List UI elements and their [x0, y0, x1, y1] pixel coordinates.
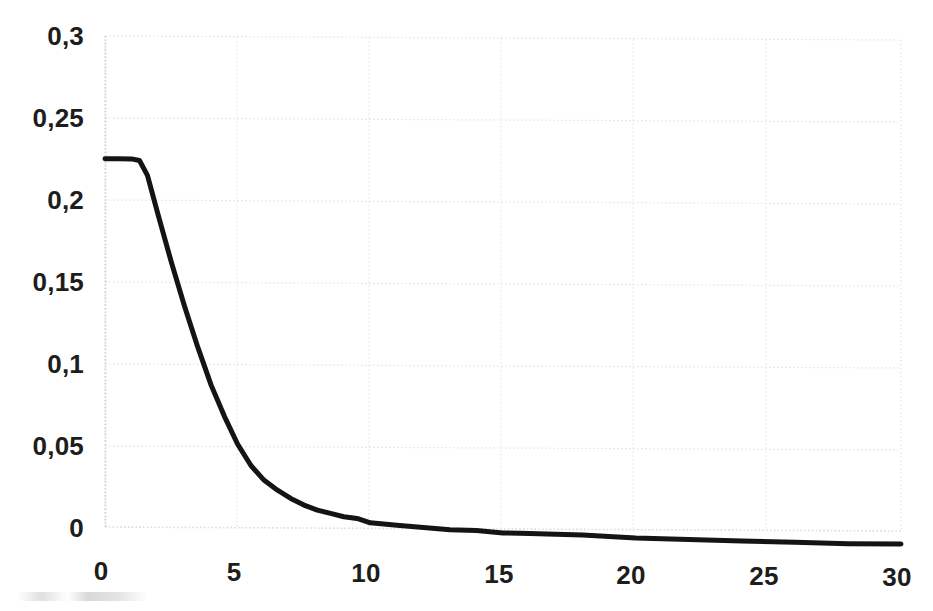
scan-artifact-smudge [18, 592, 148, 601]
y-axis-tick-label: 0 [16, 513, 84, 544]
horizontal-gridlines [105, 36, 901, 450]
plot-canvas [0, 0, 933, 611]
x-axis-tick-label: 30 [882, 562, 911, 593]
x-axis-tick-label: 25 [749, 561, 778, 592]
zero-baseline-gridline [105, 527, 901, 531]
x-axis-tick-label: 5 [227, 557, 242, 588]
x-axis-tick-label: 10 [351, 558, 380, 589]
y-axis-tick-label: 0,25 [16, 103, 84, 134]
data-series-curve [105, 159, 901, 544]
y-axis-tick-label: 0,2 [16, 185, 84, 216]
line-chart-figure: 0,3 0,25 0,2 0,15 0,1 0,05 0 0 5 10 15 2… [0, 0, 933, 611]
y-axis-tick-label: 0,15 [16, 267, 84, 298]
x-axis-tick-label: 0 [94, 556, 109, 587]
x-axis-tick-label: 15 [484, 559, 513, 590]
vertical-gridlines [105, 36, 901, 531]
y-axis-tick-label: 0,3 [16, 21, 84, 52]
y-axis-tick-label: 0,05 [16, 431, 84, 462]
y-axis-tick-label: 0,1 [16, 349, 84, 380]
x-axis-tick-label: 20 [616, 560, 645, 591]
